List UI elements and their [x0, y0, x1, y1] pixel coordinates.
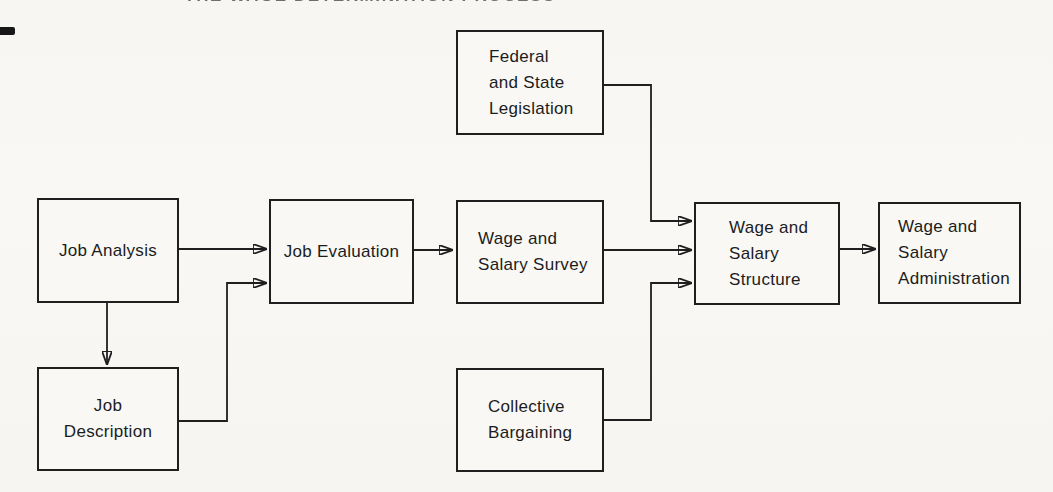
node-job-evaluation-label: Job Evaluation — [284, 239, 400, 265]
node-wage-salary-structure-label: Wage and Salary Structure — [729, 215, 808, 293]
node-wage-salary-survey-label: Wage and Salary Survey — [478, 226, 588, 278]
node-job-analysis-label: Job Analysis — [59, 238, 157, 264]
node-job-analysis: Job Analysis — [37, 198, 179, 303]
node-collective-bargaining: Collective Bargaining — [456, 368, 604, 472]
node-job-description: Job Description — [37, 367, 179, 471]
node-collective-bargaining-label: Collective Bargaining — [488, 394, 572, 446]
node-job-evaluation: Job Evaluation — [269, 199, 414, 304]
node-wage-salary-administration: Wage and Salary Administration — [878, 202, 1021, 304]
node-wage-salary-survey: Wage and Salary Survey — [456, 200, 604, 304]
node-wage-salary-structure: Wage and Salary Structure — [694, 202, 840, 305]
connector-job-description-to-job-evaluation — [179, 283, 267, 421]
connector-collective-bargaining-to-wage-salary-structure — [604, 283, 692, 420]
connector-federal-state-legislation-to-wage-salary-structure — [604, 85, 692, 221]
node-federal-state-legislation: Federal and State Legislation — [456, 30, 604, 135]
flowchart-figure: THE WAGE DETERMINATION PROCESS Job Analy… — [0, 0, 1053, 492]
node-wage-salary-administration-label: Wage and Salary Administration — [898, 214, 1010, 292]
node-federal-state-legislation-label: Federal and State Legislation — [489, 44, 574, 122]
node-job-description-label: Job Description — [64, 393, 152, 445]
